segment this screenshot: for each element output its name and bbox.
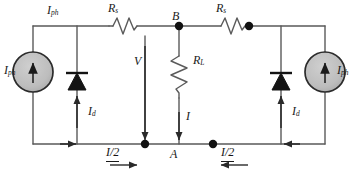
label-node-a: A [170,148,177,160]
node-dot-bottom-right [209,140,217,148]
current-source-left [13,52,53,92]
resistor-rl [171,56,187,98]
label-voltage: V [134,55,141,67]
label-iph-right: Iph [337,64,348,77]
diode-left [66,73,88,90]
label-rl: RL [193,54,204,67]
label-rs-right: Rs [216,2,226,15]
label-rs-left: Rs [108,2,118,15]
label-half-current-right: I/2 [221,145,234,162]
node-dot-b-top [175,22,183,30]
label-current-i: I [186,110,190,122]
diode-right [270,73,292,90]
label-id-right: Id [292,105,300,118]
resistor-rs-left [113,18,137,34]
node-dot-bottom-left [141,140,149,148]
label-half-current-left: I/2 [106,145,119,162]
label-node-b: B [172,10,179,22]
label-iph-top-left: Iph [47,4,58,17]
current-arrows [60,46,300,165]
circuit-diagram: Iph Rs Rs B Iph Iph V RL Id Id I A I/2 I… [0,0,358,173]
schematic-canvas [0,0,358,173]
label-iph-left: Iph [4,64,15,77]
label-id-left: Id [88,105,96,118]
node-dot-top-right [245,22,253,30]
